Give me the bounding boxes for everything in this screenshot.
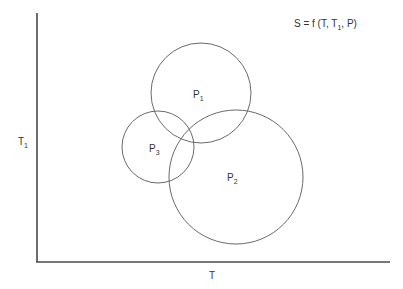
region-p3-label: P3 bbox=[149, 143, 160, 156]
region-p2-circle bbox=[169, 110, 303, 244]
region-p3-circle bbox=[122, 111, 194, 183]
region-p1-circle bbox=[151, 43, 251, 143]
region-p1-label: P1 bbox=[193, 89, 204, 102]
x-axis-label: T bbox=[209, 270, 215, 281]
region-p2-label: P2 bbox=[227, 172, 238, 185]
formula-label: S = f (T, T1, P) bbox=[294, 18, 357, 31]
phase-diagram: P1 P2 P3 T1 T S = f (T, T1, P) bbox=[0, 0, 403, 289]
y-axis-label: T1 bbox=[18, 136, 28, 149]
